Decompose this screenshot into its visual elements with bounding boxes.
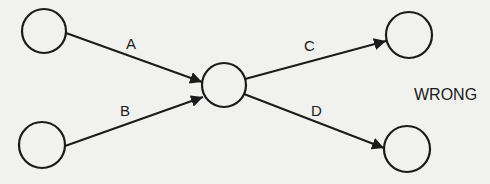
caption-wrong: WRONG <box>414 86 477 103</box>
node-top-right <box>386 12 432 58</box>
edge-label-c: C <box>304 37 315 54</box>
edge-label-d: D <box>311 102 322 119</box>
node-bottom-right <box>384 126 430 172</box>
node-top-left <box>22 9 66 53</box>
node-bottom-left <box>19 122 65 168</box>
node-center <box>202 63 246 107</box>
edge-b-arrow <box>65 97 203 146</box>
network-diagram: A B C D WRONG <box>0 0 490 184</box>
edge-c-arrow <box>245 41 386 79</box>
edge-label-b: B <box>120 102 130 119</box>
edge-label-a: A <box>126 35 136 52</box>
